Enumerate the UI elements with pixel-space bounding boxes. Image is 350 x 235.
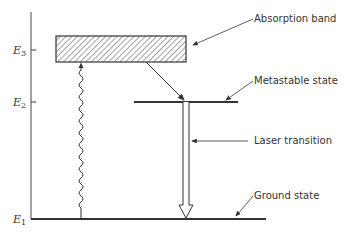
metastable-state-label: Metastable state xyxy=(254,75,338,86)
absorption-band-box xyxy=(56,36,186,62)
energy-level-diagram: E3 E2 E1 Absorption band Metastable stat… xyxy=(0,0,350,235)
laser-transition-arrow xyxy=(179,102,193,218)
e2-label: E2 xyxy=(12,96,26,110)
energy-axis xyxy=(31,12,36,219)
pump-wavy-arrow xyxy=(79,63,84,220)
e3-label: E3 xyxy=(12,44,26,58)
decay-arrow xyxy=(146,62,184,100)
ground-state-leader xyxy=(236,196,253,216)
e1-label: E1 xyxy=(12,213,26,227)
ground-state-label: Ground state xyxy=(254,190,319,201)
absorption-band-leader xyxy=(193,19,253,45)
metastable-leader xyxy=(226,81,253,100)
absorption-band-label: Absorption band xyxy=(254,13,336,24)
laser-transition-label: Laser transition xyxy=(254,135,332,146)
